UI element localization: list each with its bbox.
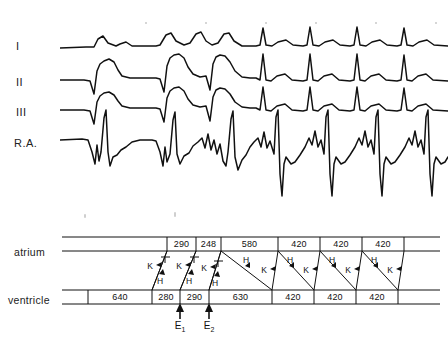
- stimulus-e1-letter: E: [175, 320, 182, 331]
- trace-lead-iii: [60, 87, 448, 124]
- ventricle-interval-6: 420: [369, 292, 385, 302]
- atrium-interval-1: 248: [201, 239, 217, 249]
- trace-lead-ii: [60, 54, 448, 94]
- conduction-label-k-5: K: [345, 265, 351, 275]
- conduction-label-k-1: K: [176, 261, 182, 271]
- conduction-label-h-5: H: [329, 255, 335, 265]
- conduction-label-h-1: H: [186, 276, 192, 286]
- conduction-label-k-6: K: [387, 265, 393, 275]
- conduction-label-h-6: H: [371, 255, 377, 265]
- ecg-traces: [60, 14, 448, 214]
- lead-label-ii: II: [16, 76, 23, 88]
- stimulus-e1-sub: 1: [181, 326, 185, 333]
- stimulus-e2-sub: 2: [210, 326, 214, 333]
- conduction-label-k-3: K: [261, 265, 267, 275]
- stimulus-e2-letter: E: [204, 320, 211, 331]
- lead-label-iii: III: [16, 106, 27, 118]
- ecg-ladder-figure: I II III R.A. atrium: [0, 0, 448, 360]
- stimulus-label-e1: E1: [175, 320, 186, 333]
- scan-speckles: [145, 22, 437, 24]
- conduction-label-k-0: K: [147, 261, 153, 271]
- conduction-label-k-2: K: [201, 263, 207, 273]
- scan-speck-1: [84, 214, 86, 218]
- stimulus-label-e2: E2: [204, 320, 215, 333]
- ventricle-interval-4: 420: [285, 292, 301, 302]
- ventricle-interval-3: 630: [233, 292, 249, 302]
- atrium-interval-4: 420: [333, 239, 349, 249]
- conduction-label-h-3: H: [243, 255, 249, 265]
- ventricle-interval-5: 420: [327, 292, 343, 302]
- trace-lead-ra: [60, 110, 448, 196]
- ecg-panel: I II III R.A.: [0, 14, 448, 214]
- atrium-interval-0: 290: [174, 239, 190, 249]
- conduction-label-h-2: H: [212, 278, 218, 288]
- ladder-diagram: atrium ventricle: [0, 224, 448, 320]
- ventricle-interval-1: 280: [158, 292, 174, 302]
- conduction-label-h-0: H: [157, 276, 163, 286]
- ventricle-interval-2: 290: [187, 292, 203, 302]
- lead-label-ra: R.A.: [14, 137, 37, 149]
- ventricle-interval-0: 640: [112, 292, 128, 302]
- atrium-interval-3: 420: [291, 239, 307, 249]
- scan-speck-2: [174, 212, 176, 217]
- conduction-label-h-4: H: [287, 255, 293, 265]
- conduction-label-k-4: K: [303, 265, 309, 275]
- conduction-arrowheads: [156, 262, 402, 277]
- stimulus-arrows: [180, 306, 209, 319]
- trace-lead-i: [60, 27, 448, 48]
- atrium-interval-5: 420: [375, 239, 391, 249]
- lead-label-i: I: [16, 40, 20, 52]
- atrium-interval-2: 580: [242, 239, 258, 249]
